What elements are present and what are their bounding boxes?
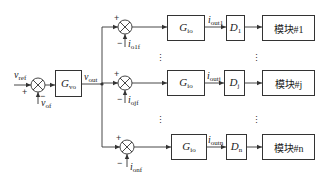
i-out1-label: iout1 xyxy=(208,15,223,27)
d-block-1: D1 xyxy=(226,15,245,41)
ellipsis-vertical: ⋮ xyxy=(156,56,160,60)
g-io-block-1: Gio xyxy=(167,15,205,41)
minus-sign: − xyxy=(117,39,122,48)
i-onf-label: ionf xyxy=(130,162,142,174)
module-block-j: 模块#j xyxy=(262,70,315,96)
plus-sign: + xyxy=(116,134,121,143)
v-ref-label: vref xyxy=(14,70,26,82)
minus-sign: − xyxy=(117,95,122,104)
g-io-block-n: Gio xyxy=(171,134,207,160)
i-ojf-label: iojf xyxy=(128,95,139,107)
g-io-block-j: Gio xyxy=(167,70,205,96)
plus-sign: + xyxy=(114,70,119,79)
summing-junction-1 xyxy=(118,20,132,34)
ellipsis-vertical: ⋮ xyxy=(156,118,160,122)
minus-sign: − xyxy=(117,159,122,168)
v-out-label: vout xyxy=(84,72,97,84)
d-block-n: Dn xyxy=(226,134,247,160)
d-block-j: Dj xyxy=(224,70,245,96)
i-outj-label: ioutj xyxy=(207,71,221,83)
v-of-label: vof xyxy=(41,98,51,110)
module-block-1: 模块#1 xyxy=(262,15,315,41)
plus-sign: + xyxy=(22,88,27,97)
summing-junction-j xyxy=(118,76,132,90)
ellipsis-vertical: ⋮ xyxy=(252,56,256,60)
i-o1f-label: io1f xyxy=(128,39,140,51)
summing-junction-n xyxy=(120,140,134,154)
junction-dot xyxy=(100,82,103,85)
plus-sign: + xyxy=(114,14,119,23)
ellipsis-vertical: ⋮ xyxy=(252,118,256,122)
summing-junction-main xyxy=(31,78,45,92)
i-outn-label: ioutn xyxy=(208,135,223,147)
module-block-n: 模块#n xyxy=(262,134,315,160)
g-vo-block: Gvo xyxy=(55,70,82,97)
